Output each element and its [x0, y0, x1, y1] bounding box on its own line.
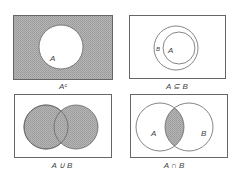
- set-a-label: A: [167, 46, 173, 55]
- panel-subset: A B A ⊆ B: [130, 16, 226, 92]
- set-b-label: B: [156, 46, 160, 52]
- set-a-label: A: [150, 129, 156, 138]
- universe-box: [130, 16, 226, 79]
- venn-diagram-figure: A Aᶜ A B A ⊆ B A ∪ B A B A ∩ B: [0, 0, 238, 177]
- caption-intersection: A ∩ B: [163, 161, 185, 170]
- panel-complement: A Aᶜ: [14, 16, 113, 92]
- set-b-label: B: [201, 129, 207, 138]
- panel-union: A ∪ B: [15, 95, 112, 171]
- caption-union: A ∪ B: [51, 161, 73, 170]
- set-a-circle: [39, 25, 83, 69]
- panel-intersection: A B A ∩ B: [131, 95, 228, 171]
- set-b-circle: [54, 105, 98, 149]
- caption-subset: A ⊆ B: [165, 82, 188, 91]
- caption-complement: Aᶜ: [58, 82, 67, 91]
- set-a-label: A: [49, 54, 55, 63]
